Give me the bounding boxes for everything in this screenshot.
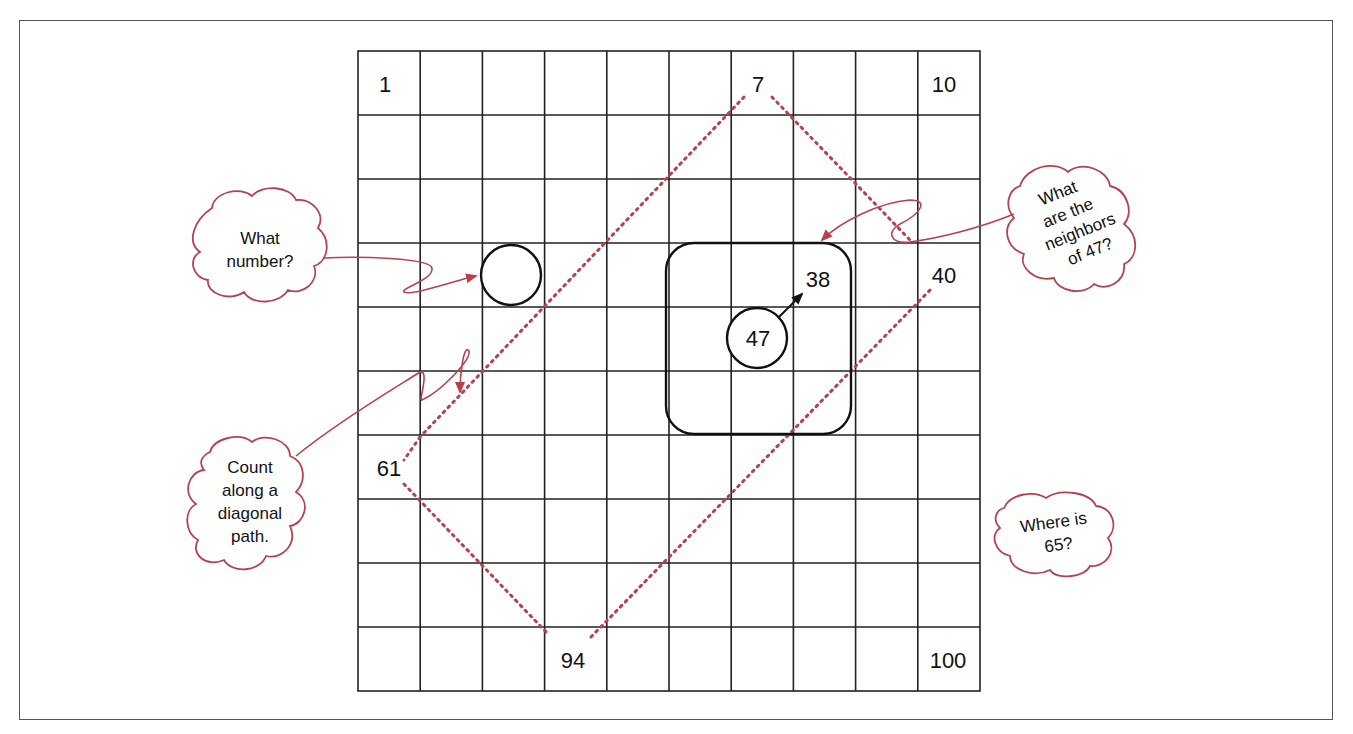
callout-what-number-line2: number? (226, 252, 293, 271)
cell-40: 40 (932, 263, 956, 288)
hundred-chart-diagram: 1 7 10 38 40 47 61 94 100 What number? C… (0, 0, 1353, 734)
hundred-grid (358, 51, 980, 691)
cell-100: 100 (930, 648, 967, 673)
cell-47: 47 (746, 326, 770, 351)
cell-38: 38 (806, 267, 830, 292)
cell-10: 10 (932, 72, 956, 97)
what-number-circle (481, 245, 541, 305)
cell-1: 1 (379, 72, 391, 97)
arrow-47-to-38-icon (779, 294, 802, 317)
callout-what-number-line1: What (240, 229, 280, 248)
cell-numbers: 1 7 10 38 40 47 61 94 100 (377, 72, 967, 673)
callout-what-number: What number? (193, 188, 476, 301)
callout-count-line1: Count (227, 458, 273, 477)
cell-61: 61 (377, 456, 401, 481)
callout-count-diagonal: Count along a diagonal path. (187, 350, 469, 570)
callout-where-line2: 65? (1043, 534, 1074, 557)
callout-where-65: Where is 65? (995, 492, 1114, 576)
diagram-stage: 1 7 10 38 40 47 61 94 100 What number? C… (0, 0, 1353, 734)
callout-count-line3: diagonal (218, 504, 282, 523)
callout-count-line4: path. (231, 527, 269, 546)
callout-count-line2: along a (222, 481, 278, 500)
cell-94: 94 (561, 648, 585, 673)
cell-7: 7 (752, 72, 764, 97)
callout-neighbors: What are the neighbors of 47? (822, 166, 1135, 291)
